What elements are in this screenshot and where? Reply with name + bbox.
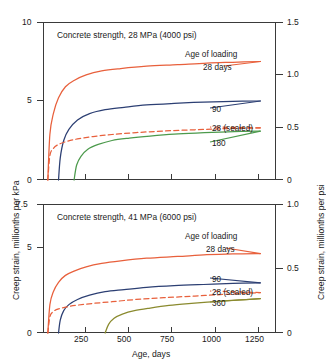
legend-label-top-3: 180 (212, 139, 226, 148)
legend-label-top-1: 90 (212, 105, 221, 114)
series-line-360 (105, 299, 260, 333)
legend-label-bottom-0: 28 days (206, 245, 235, 254)
series-line-90 (59, 101, 261, 180)
legend-label-top-0: 28 days (203, 63, 232, 72)
series-line-28-days (48, 62, 261, 181)
legend-label-bottom-2: 28 (sealed) (212, 288, 253, 297)
legend-title-bottom: Age of loading (185, 232, 237, 241)
chart-panel-top: Concrete strength, 28 MPa (4000 psi) 0 5… (0, 0, 323, 185)
chart-panel-bottom: Concrete strength, 41 MPa (6000 psi) 0 5… (0, 185, 323, 359)
legend-title-top: Age of loading (185, 50, 237, 59)
legend-label-bottom-3: 360 (212, 299, 226, 308)
legend-label-top-2: 28 (sealed) (212, 124, 253, 133)
curves-bottom (0, 185, 323, 359)
series-line-180 (74, 131, 260, 180)
curves-top (0, 0, 323, 185)
legend-label-bottom-1: 90 (212, 275, 221, 284)
